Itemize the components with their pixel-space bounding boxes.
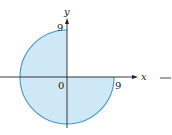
origin-label: 0 (58, 80, 64, 91)
y-axis-arrow-icon (65, 18, 69, 24)
y-axis-label: y (63, 6, 70, 17)
diagram: x y 9 9 0 (0, 0, 172, 135)
y-tick-label: 9 (57, 22, 63, 33)
x-axis-arrow-icon (132, 75, 138, 79)
x-axis-label: x (141, 71, 147, 82)
x-tick-label: 9 (115, 80, 121, 91)
